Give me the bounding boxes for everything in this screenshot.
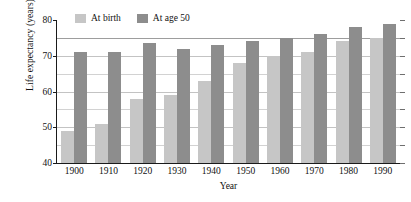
y-tick-label: 50 (43, 122, 53, 132)
bar-chart: Life expectancy (years) 4050607080 19001… (0, 0, 411, 202)
x-tick-label-1910: 1910 (99, 166, 118, 176)
y-tick-mark-right (400, 127, 405, 128)
plot-area: 4050607080 19001910192019301940195019601… (57, 20, 400, 163)
y-tick-mark-right (400, 163, 405, 164)
legend-item-at-age-50: At age 50 (137, 13, 190, 23)
bar-at-birth-1900 (61, 131, 74, 163)
bar-at-age-50-1900 (74, 52, 87, 163)
y-tick-mark-right (400, 20, 405, 21)
y-axis-title: Life expectancy (years) (25, 0, 35, 120)
y-tick-mark-right (400, 74, 405, 75)
y-tick-label: 40 (43, 158, 53, 168)
legend-label-at-age-50: At age 50 (153, 13, 190, 23)
x-tick-label-1930: 1930 (168, 166, 187, 176)
bar-group (61, 20, 87, 163)
bar-at-age-50-1910 (108, 52, 121, 163)
legend-item-at-birth: At birth (75, 13, 121, 23)
bar-group (370, 20, 396, 163)
bar-group (95, 20, 121, 163)
x-tick-label-1990: 1990 (373, 166, 392, 176)
bar-at-birth-1910 (95, 124, 108, 163)
x-tick-label-1920: 1920 (133, 166, 152, 176)
y-tick-mark (53, 163, 57, 164)
bar-at-birth-1970 (301, 52, 314, 163)
bar-at-age-50-1950 (246, 41, 259, 163)
y-tick-mark-right (400, 56, 405, 57)
bar-at-age-50-1930 (177, 49, 190, 163)
y-tick-label: 60 (43, 86, 53, 96)
bar-group (130, 20, 156, 163)
bar-at-age-50-1980 (349, 27, 362, 163)
bar-at-birth-1920 (130, 99, 143, 163)
bar-group (164, 20, 190, 163)
bar-at-birth-1930 (164, 95, 177, 163)
bar-at-age-50-1970 (314, 34, 327, 163)
x-tick-label-1980: 1980 (339, 166, 358, 176)
bar-group (336, 20, 362, 163)
y-tick-mark-right (400, 92, 405, 93)
y-tick-mark-right (400, 109, 405, 110)
y-tick-mark-right (400, 38, 405, 39)
bar-series-container (57, 20, 400, 163)
bar-at-birth-1980 (336, 41, 349, 163)
x-tick-label-1960: 1960 (270, 166, 289, 176)
x-tick-label-1970: 1970 (305, 166, 324, 176)
x-axis-title: Year (57, 181, 400, 191)
x-tick-label-1900: 1900 (65, 166, 84, 176)
bar-group (233, 20, 259, 163)
bar-at-birth-1950 (233, 63, 246, 163)
bar-at-birth-1960 (267, 56, 280, 163)
bar-group (198, 20, 224, 163)
legend-swatch-at-age-50 (137, 14, 148, 23)
bar-at-birth-1940 (198, 81, 211, 163)
bar-group (301, 20, 327, 163)
legend-label-at-birth: At birth (91, 13, 121, 23)
y-tick-label: 70 (43, 51, 53, 61)
legend: At birth At age 50 (75, 13, 190, 23)
bar-at-age-50-1940 (211, 45, 224, 163)
y-tick-mark-right (400, 145, 405, 146)
bar-at-age-50-1960 (280, 38, 293, 163)
bar-at-age-50-1920 (143, 43, 156, 163)
bar-group (267, 20, 293, 163)
y-tick-label: 80 (43, 15, 53, 25)
bar-at-age-50-1990 (383, 24, 396, 163)
x-tick-label-1950: 1950 (236, 166, 255, 176)
legend-swatch-at-birth (75, 14, 86, 23)
x-tick-label-1940: 1940 (202, 166, 221, 176)
bar-at-birth-1990 (370, 38, 383, 163)
